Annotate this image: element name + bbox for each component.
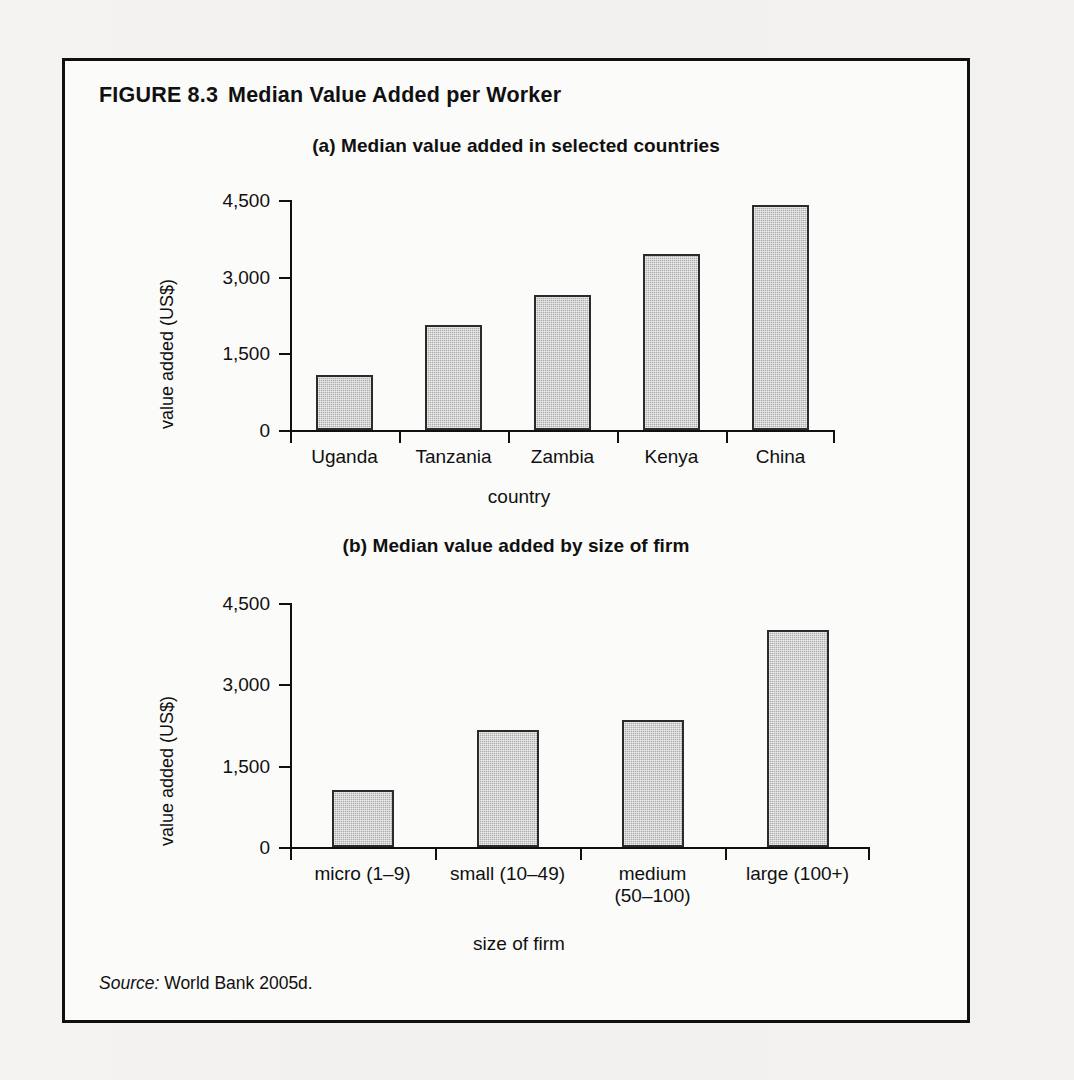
x-axis-tick-label: micro (1–9) (290, 863, 435, 885)
x-axis-tick (435, 849, 437, 860)
x-axis-tick-label-line: medium (580, 863, 725, 885)
x-axis-tick-label-line: large (100+) (725, 863, 870, 885)
bar (767, 630, 829, 847)
y-axis-tick-label: 0 (165, 837, 270, 859)
x-axis-tick-label-line: small (10–49) (435, 863, 580, 885)
x-axis-tick-label: medium(50–100) (580, 863, 725, 908)
bar (332, 790, 394, 847)
x-axis-tick (725, 849, 727, 860)
x-axis-tick-label-line: (50–100) (580, 885, 725, 907)
y-axis-tick (279, 603, 290, 605)
x-axis-tick-label-line: micro (1–9) (290, 863, 435, 885)
y-axis-tick (279, 684, 290, 686)
bar (622, 720, 684, 847)
y-axis-tick-label: 1,500 (165, 756, 270, 778)
x-axis-tick-label: large (100+) (725, 863, 870, 885)
bar (477, 730, 539, 847)
source-text: World Bank 2005d. (164, 973, 313, 993)
page-background: FIGURE 8.3Median Value Added per Worker … (0, 0, 1074, 1080)
y-axis-line (290, 603, 292, 849)
x-axis-tick (580, 849, 582, 860)
y-axis-tick-label: 4,500 (165, 593, 270, 615)
y-axis-title: value added (US$) (157, 696, 178, 846)
source-label: Source: (99, 973, 159, 993)
chart-panel-b: 01,5003,0004,500value added (US$)micro (… (65, 61, 973, 991)
x-axis-title: size of firm (65, 933, 973, 955)
y-axis-tick-label: 3,000 (165, 674, 270, 696)
y-axis-tick (279, 766, 290, 768)
source-note: Source: World Bank 2005d. (99, 973, 313, 994)
x-axis-tick (868, 849, 870, 860)
x-axis-tick (290, 849, 292, 860)
figure-box: FIGURE 8.3Median Value Added per Worker … (62, 58, 970, 1023)
y-axis-tick (279, 847, 290, 849)
x-axis-tick-label: small (10–49) (435, 863, 580, 885)
